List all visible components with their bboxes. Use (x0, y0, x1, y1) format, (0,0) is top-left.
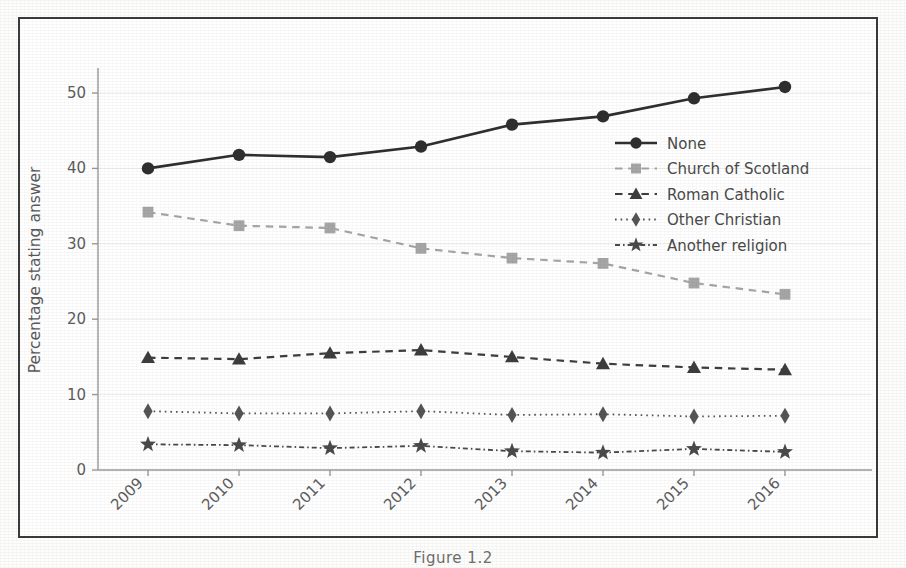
x-tick-label: 2011 (289, 474, 329, 514)
y-axis-title: Percentage stating answer (26, 166, 44, 373)
axes (92, 68, 872, 476)
data-point-marker (504, 443, 520, 458)
data-point-marker (507, 253, 518, 264)
series-another-religion (140, 436, 793, 459)
data-point-marker (234, 220, 245, 231)
chart-legend: NoneChurch of ScotlandRoman CatholicOthe… (615, 135, 809, 255)
data-point-marker (142, 162, 154, 174)
data-point-marker (143, 207, 154, 218)
data-point-marker (689, 408, 698, 424)
data-point-marker (507, 407, 516, 423)
data-point-marker (234, 405, 243, 421)
legend-label: Another religion (667, 237, 787, 255)
data-point-marker (325, 405, 334, 421)
data-point-marker (231, 437, 247, 452)
legend-entry: Other Christian (615, 211, 781, 229)
data-point-marker (689, 278, 700, 289)
x-tick-label: 2014 (562, 474, 602, 514)
data-point-marker (506, 118, 518, 130)
legend-label: Roman Catholic (667, 186, 785, 204)
x-tick-label: 2012 (380, 474, 420, 514)
line-chart: 01020304050 2009201020112012201320142015… (0, 0, 906, 568)
figure-root: 01020304050 2009201020112012201320142015… (0, 0, 906, 568)
data-point-marker (416, 403, 425, 419)
data-point-marker (598, 406, 607, 422)
data-point-marker (629, 237, 644, 251)
data-point-marker (416, 243, 427, 254)
y-tick-label: 50 (67, 84, 86, 102)
series-other-christian (143, 403, 789, 424)
data-point-marker (415, 140, 427, 152)
data-point-marker (777, 444, 793, 459)
series-roman-catholic (141, 343, 792, 375)
x-tick-label: 2010 (198, 474, 238, 514)
y-tick-label: 30 (67, 235, 86, 253)
data-point-marker (143, 403, 152, 419)
legend-label: Church of Scotland (667, 160, 809, 178)
y-axis-tick-labels: 01020304050 (67, 84, 86, 479)
legend-label: None (667, 135, 706, 153)
y-tick-label: 0 (76, 461, 86, 479)
data-point-marker (325, 223, 336, 234)
figure-caption: Figure 1.2 (0, 549, 906, 568)
data-point-marker (779, 81, 791, 93)
data-point-marker (688, 92, 700, 104)
y-axis-title-text: Percentage stating answer (26, 166, 44, 373)
data-point-marker (598, 258, 609, 269)
data-point-marker (686, 440, 702, 455)
x-tick-label: 2015 (653, 474, 693, 514)
series-line (148, 350, 785, 370)
x-tick-label: 2009 (107, 474, 147, 514)
data-point-marker (233, 149, 245, 161)
data-point-marker (631, 164, 641, 174)
series-line (148, 411, 785, 416)
y-tick-label: 40 (67, 159, 86, 177)
x-axis-tick-labels: 20092010201120122013201420152016 (107, 474, 784, 514)
x-tick-label: 2016 (744, 474, 784, 514)
data-point-marker (413, 437, 429, 452)
x-tick-label: 2013 (471, 474, 511, 514)
data-point-marker (595, 444, 611, 459)
legend-entry: Church of Scotland (615, 160, 809, 178)
data-point-marker (778, 363, 792, 375)
data-point-marker (780, 289, 791, 300)
data-point-marker (630, 137, 641, 148)
data-point-marker (324, 151, 336, 163)
legend-label: Other Christian (667, 211, 781, 229)
data-point-marker (632, 212, 640, 227)
data-point-marker (140, 436, 156, 451)
legend-entry: Another religion (615, 237, 787, 255)
data-point-marker (597, 110, 609, 122)
data-point-marker (780, 408, 789, 424)
y-tick-label: 10 (67, 386, 86, 404)
y-tick-label: 20 (67, 310, 86, 328)
data-point-marker (322, 440, 338, 455)
legend-entry: Roman Catholic (615, 186, 785, 204)
legend-entry: None (615, 135, 706, 153)
